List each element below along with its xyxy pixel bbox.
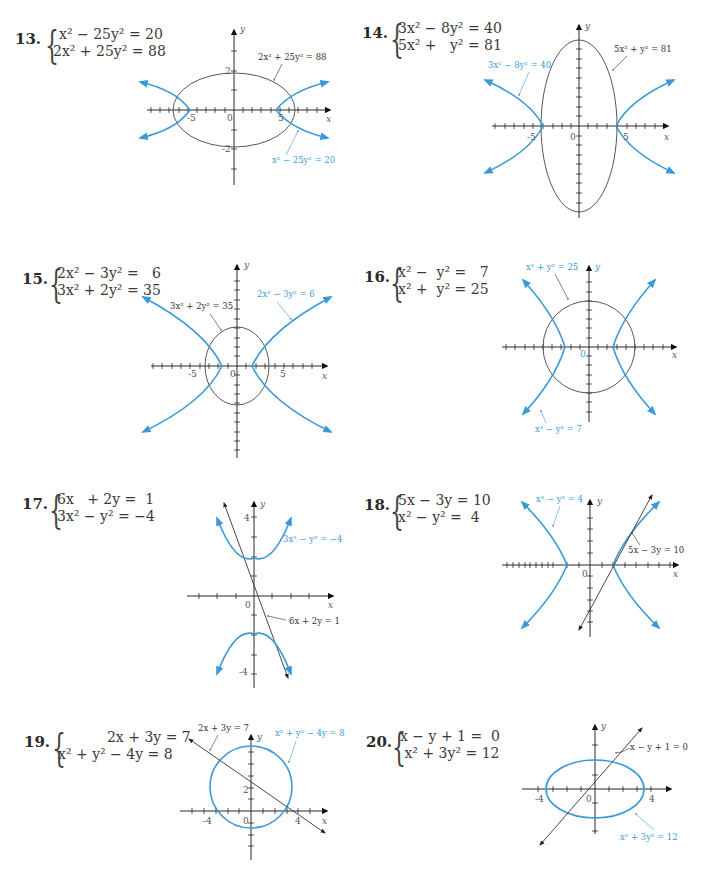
- curve-label: x² + 3y² = 12: [620, 832, 678, 842]
- tick-label: -4: [535, 794, 544, 804]
- tick-label: 0: [586, 794, 592, 804]
- tick-label: 4: [649, 794, 655, 804]
- curve-label: x − y + 1 = 0: [630, 742, 688, 752]
- y-axis-label: y: [600, 721, 607, 731]
- graph-20: -4 0 4 y x − y + 1 = 0 x² + 3y² = 12: [0, 0, 702, 882]
